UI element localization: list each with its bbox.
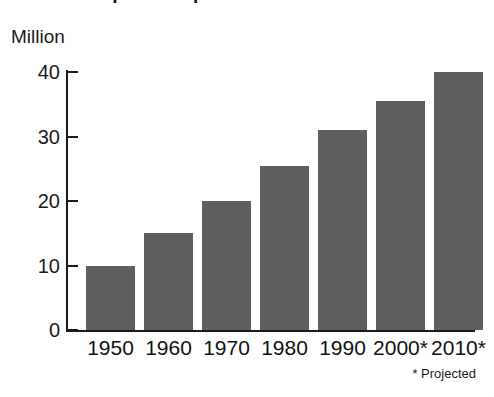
y-tick-10: [68, 265, 78, 267]
x-tick-label-1950: 1950: [81, 336, 140, 360]
y-tick-label-40: 40: [8, 62, 60, 82]
bar-2010-projected[interactable]: [434, 72, 483, 330]
x-axis-line: [66, 330, 475, 332]
y-tick-label-30: 30: [8, 127, 60, 147]
x-tick-label-1970: 1970: [197, 336, 256, 360]
bar-2000-projected[interactable]: [376, 101, 425, 330]
x-tick-label-1980: 1980: [255, 336, 314, 360]
y-tick-20: [68, 200, 78, 202]
bar-1960[interactable]: [144, 233, 193, 330]
y-tick-label-20: 20: [8, 191, 60, 211]
bar-1970[interactable]: [202, 201, 251, 330]
bar-1990[interactable]: [318, 130, 367, 330]
y-tick-0: [68, 329, 78, 331]
footnote: * Projected: [412, 366, 476, 382]
x-tick-label-1960: 1960: [139, 336, 198, 360]
x-tick-label-2000-projected: 2000*: [371, 336, 430, 360]
bar-1980[interactable]: [260, 166, 309, 330]
bar-1950[interactable]: [86, 266, 135, 331]
y-tick-label-0: 0: [8, 320, 60, 340]
y-tick-label-10: 10: [8, 256, 60, 276]
y-tick-40: [68, 71, 78, 73]
bar-chart: 010203040 195019601970198019902000*2010*: [0, 0, 494, 397]
y-tick-30: [68, 136, 78, 138]
x-tick-label-1990: 1990: [313, 336, 372, 360]
x-tick-label-2010-projected: 2010*: [429, 336, 488, 360]
